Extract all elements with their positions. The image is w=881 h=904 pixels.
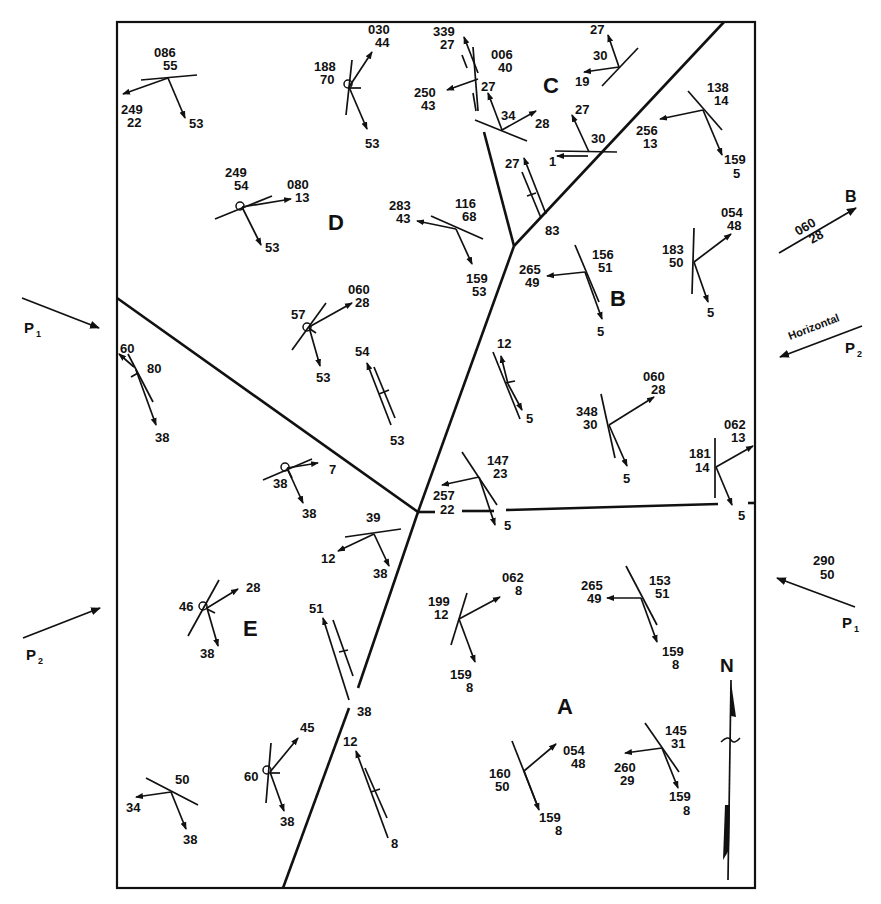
svg-text:8: 8 (466, 680, 473, 695)
symbol-d6: 54 53 (355, 344, 404, 448)
svg-text:2: 2 (38, 656, 43, 666)
svg-text:14: 14 (714, 93, 729, 108)
svg-text:53: 53 (265, 240, 279, 255)
symbol-a3: 054 48 160 50 159 8 (489, 741, 585, 838)
svg-text:38: 38 (373, 566, 387, 581)
symbol-a2: 153 51 265 49 159 8 (581, 566, 684, 672)
svg-text:46: 46 (179, 599, 193, 614)
svg-text:43: 43 (396, 211, 410, 226)
svg-text:22: 22 (127, 115, 141, 130)
svg-text:53: 53 (390, 433, 404, 448)
svg-text:29: 29 (620, 773, 634, 788)
svg-text:290: 290 (813, 553, 835, 568)
symbol-e3: 39 12 38 (321, 510, 401, 581)
north-arrow: N (720, 655, 740, 880)
svg-text:53: 53 (316, 370, 330, 385)
svg-text:53: 53 (472, 284, 486, 299)
symbol-c2: 34 28 (475, 93, 549, 141)
svg-text:38: 38 (357, 704, 371, 719)
p1-right-arrow: 290 50 P 1 (777, 553, 859, 634)
svg-text:70: 70 (320, 72, 334, 87)
svg-text:27: 27 (590, 22, 604, 37)
svg-text:7: 7 (329, 462, 336, 477)
symbol-a5: 12 8 (343, 734, 398, 851)
svg-text:54: 54 (355, 344, 370, 359)
svg-text:34: 34 (501, 108, 516, 123)
svg-text:28: 28 (535, 116, 549, 131)
svg-text:38: 38 (302, 506, 316, 521)
svg-text:159: 159 (724, 152, 746, 167)
svg-text:68: 68 (462, 209, 476, 224)
svg-text:57: 57 (291, 307, 305, 322)
svg-text:38: 38 (183, 832, 197, 847)
svg-text:48: 48 (571, 756, 585, 771)
svg-text:55: 55 (163, 58, 177, 73)
svg-text:5: 5 (733, 166, 740, 181)
svg-text:13: 13 (295, 190, 309, 205)
symbol-c4: 27 30 1 (549, 102, 617, 169)
region-label-e: E (243, 616, 258, 641)
map-frame (117, 22, 755, 888)
svg-text:5: 5 (707, 305, 714, 320)
symbol-d1: 086 55 249 22 53 (121, 45, 203, 131)
symbol-b3: 054 48 183 50 5 (662, 205, 743, 320)
svg-text:P: P (26, 646, 36, 663)
svg-text:51: 51 (309, 601, 323, 616)
svg-text:1: 1 (854, 624, 859, 634)
symbol-e7: 45 60 38 (244, 720, 314, 829)
svg-text:51: 51 (655, 586, 669, 601)
svg-text:8: 8 (672, 657, 679, 672)
symbol-b2: 156 51 265 49 5 (519, 245, 614, 339)
svg-text:8: 8 (683, 803, 690, 818)
svg-text:50: 50 (175, 772, 189, 787)
p2-left-arrow: P 2 (23, 608, 100, 666)
svg-text:53: 53 (365, 136, 379, 151)
svg-text:27: 27 (505, 156, 519, 171)
symbol-c3: 27 30 19 (575, 22, 638, 89)
svg-text:19: 19 (575, 74, 589, 89)
b-external-arrow: B 060 28 (779, 188, 857, 253)
symbol-b6: 062 13 181 14 5 (689, 417, 753, 523)
svg-text:8: 8 (555, 823, 562, 838)
region-label-b: B (610, 286, 626, 311)
svg-text:38: 38 (155, 430, 169, 445)
symbol-d3: 249 54 080 13 53 (215, 165, 309, 255)
svg-text:45: 45 (300, 720, 314, 735)
svg-text:27: 27 (440, 37, 454, 52)
svg-text:28: 28 (355, 295, 369, 310)
symbol-d2: 030 44 188 70 53 (314, 22, 390, 151)
svg-text:8: 8 (515, 583, 522, 598)
svg-text:50: 50 (669, 255, 683, 270)
svg-text:B: B (845, 188, 857, 205)
svg-text:13: 13 (731, 430, 745, 445)
svg-text:44: 44 (375, 35, 390, 50)
svg-text:50: 50 (495, 779, 509, 794)
svg-text:14: 14 (695, 460, 710, 475)
svg-text:12: 12 (434, 607, 448, 622)
svg-text:83: 83 (545, 223, 559, 238)
svg-text:1: 1 (36, 329, 41, 339)
svg-text:39: 39 (366, 510, 380, 525)
svg-text:60: 60 (120, 341, 134, 356)
svg-text:30: 30 (591, 131, 605, 146)
symbol-a1: 062 8 199 12 159 8 (428, 570, 524, 695)
svg-text:30: 30 (583, 417, 597, 432)
symbol-b5: 060 28 348 30 5 (576, 369, 665, 486)
svg-text:P: P (845, 339, 855, 356)
symbol-d5: 060 28 57 53 (291, 282, 370, 385)
svg-text:60: 60 (244, 769, 258, 784)
svg-text:80: 80 (147, 361, 161, 376)
svg-text:49: 49 (525, 275, 539, 290)
svg-text:5: 5 (504, 518, 511, 533)
svg-text:12: 12 (321, 551, 335, 566)
svg-text:27: 27 (481, 79, 495, 94)
svg-text:1: 1 (549, 154, 556, 169)
symbol-e2: 38 7 38 (263, 459, 336, 521)
svg-text:31: 31 (671, 736, 685, 751)
symbol-a4: 145 31 260 29 159 8 (614, 723, 691, 818)
symbol-e5: 51 38 (309, 601, 371, 719)
svg-text:38: 38 (273, 476, 287, 491)
svg-text:53: 53 (189, 116, 203, 131)
svg-text:257: 257 (433, 488, 455, 503)
region-label-d: D (328, 210, 344, 235)
